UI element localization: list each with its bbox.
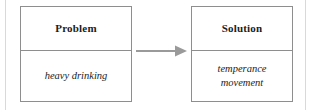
page-rule-right — [305, 0, 306, 110]
solution-box-header: Solution — [192, 7, 292, 51]
arrow-right-icon — [135, 43, 189, 59]
problem-box: Problem heavy drinking — [20, 6, 132, 102]
page-rule-left — [5, 0, 6, 110]
problem-box-body-label: heavy drinking — [45, 69, 108, 83]
problem-solution-diagram: Problem heavy drinking Solution temperan… — [0, 0, 313, 110]
problem-box-header: Problem — [21, 7, 131, 51]
solution-box-header-label: Solution — [222, 22, 263, 34]
problem-box-header-label: Problem — [55, 22, 97, 34]
solution-box: Solution temperance movement — [191, 6, 293, 102]
solution-box-body: temperance movement — [192, 51, 292, 101]
problem-box-body: heavy drinking — [21, 51, 131, 101]
solution-box-body-label: temperance movement — [218, 62, 267, 90]
